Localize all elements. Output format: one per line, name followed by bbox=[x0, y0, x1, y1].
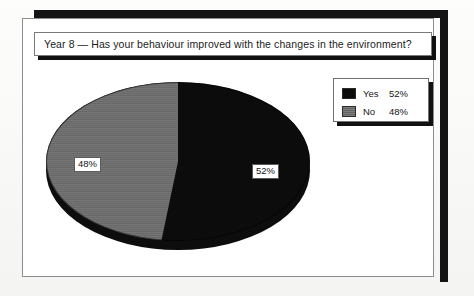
legend-item-no[interactable]: No 48% bbox=[342, 103, 428, 119]
chart-title-text: Year 8 — Has your behaviour improved wit… bbox=[35, 38, 412, 50]
legend-box: Yes 52% No 48% bbox=[333, 78, 429, 122]
outer-frame-right-bar bbox=[440, 10, 448, 282]
pie-label-no: 48% bbox=[74, 157, 101, 172]
legend-label-no: No bbox=[363, 106, 389, 117]
gray-swatch-icon bbox=[342, 106, 356, 117]
outer-frame-top-bar bbox=[34, 10, 448, 18]
legend-item-yes[interactable]: Yes 52% bbox=[342, 85, 428, 101]
legend-value-yes: 52% bbox=[389, 88, 408, 99]
black-swatch-icon bbox=[342, 88, 356, 99]
pie-label-yes: 52% bbox=[252, 164, 279, 179]
chart-title-box: Year 8 — Has your behaviour improved wit… bbox=[34, 32, 432, 56]
legend-value-no: 48% bbox=[389, 106, 408, 117]
legend-label-yes: Yes bbox=[363, 88, 389, 99]
